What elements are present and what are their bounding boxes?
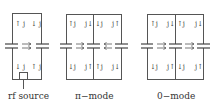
caption-rf-source: rf source <box>8 91 49 101</box>
current-label: ↑ j <box>15 20 25 28</box>
field-arrow-left-icon <box>104 43 112 50</box>
cavity-mode-diagram: ↑ j ↓ j ↓ j ↑ j rf source ↑j j↓ ↓j j↑ ↓j… <box>0 0 211 106</box>
current-label: j↓ <box>111 63 120 71</box>
current-label: ↓ j <box>15 63 25 71</box>
panel-pi-mode: ↑j j↓ ↓j j↑ ↓j j↑ ↑j j↓ π−mode <box>60 15 128 102</box>
caption-pi-mode: π−mode <box>75 91 114 101</box>
current-label: ↑ j <box>31 63 41 71</box>
current-label: j↑ <box>194 63 203 71</box>
panel-zero-mode: ↑j j↓ ↓j j↑ ↑j j↓ ↓j j↑ 0−mode <box>141 15 210 102</box>
current-label: ↓j <box>150 63 158 71</box>
rf-source-coupler <box>20 73 28 90</box>
current-label: ↓j <box>95 20 103 28</box>
current-label: j↓ <box>166 20 175 28</box>
panel-rf-source: ↑ j ↓ j ↓ j ↑ j rf source <box>5 14 49 102</box>
field-arrow-right-icon <box>22 43 31 50</box>
current-label: j↑ <box>166 63 175 71</box>
current-label: ↑j <box>68 20 76 28</box>
field-arrow-right-icon <box>185 43 194 50</box>
current-label: ↓j <box>68 63 76 71</box>
current-label: ↑j <box>150 20 158 28</box>
current-label: j↑ <box>111 20 120 28</box>
caption-zero-mode: 0−mode <box>157 91 195 101</box>
field-arrow-right-icon <box>157 43 166 50</box>
current-label: j↓ <box>84 20 93 28</box>
current-label: ↑j <box>177 20 185 28</box>
current-label: ↓j <box>177 63 185 71</box>
current-label: ↑j <box>95 63 103 71</box>
current-label: ↓ j <box>31 20 41 28</box>
current-label: j↓ <box>194 20 203 28</box>
field-arrow-right-icon <box>76 43 84 50</box>
current-label: j↑ <box>84 63 93 71</box>
